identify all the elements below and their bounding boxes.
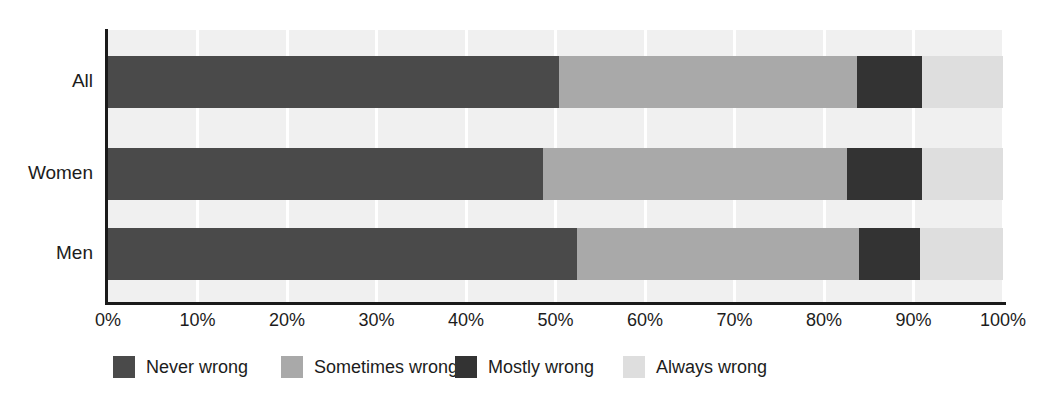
x-axis-line bbox=[105, 302, 1006, 305]
bar-segment-men-mostly-wrong bbox=[859, 228, 920, 280]
legend-item-always-wrong[interactable]: Always wrong bbox=[623, 356, 767, 378]
legend-item-never-wrong[interactable]: Never wrong bbox=[113, 356, 248, 378]
bar-segment-women-mostly-wrong bbox=[847, 148, 921, 200]
x-tick-label-40: 40% bbox=[448, 310, 484, 331]
legend: Never wrongSometimes wrongMostly wrongAl… bbox=[113, 356, 813, 380]
x-tick-label-0: 0% bbox=[95, 310, 121, 331]
x-tick-label-90: 90% bbox=[895, 310, 931, 331]
bar-row-women bbox=[108, 148, 1003, 200]
y-axis-label-women: Women bbox=[0, 162, 93, 184]
bar-segment-men-sometimes-wrong bbox=[577, 228, 859, 280]
y-axis-label-all: All bbox=[0, 70, 93, 92]
legend-swatch-icon-always-wrong bbox=[623, 356, 645, 378]
bar-segment-men-never-wrong bbox=[108, 228, 577, 280]
x-tick-label-100: 100% bbox=[980, 310, 1026, 331]
bar-segment-women-never-wrong bbox=[108, 148, 543, 200]
legend-item-sometimes-wrong[interactable]: Sometimes wrong bbox=[281, 356, 458, 378]
bar-segment-men-always-wrong bbox=[920, 228, 1003, 280]
bar-segment-all-never-wrong bbox=[108, 56, 559, 108]
bars-layer bbox=[108, 30, 1003, 302]
x-axis-tick-labels: 0%10%20%30%40%50%60%70%80%90%100% bbox=[108, 310, 1003, 336]
legend-label: Mostly wrong bbox=[488, 357, 594, 378]
stacked-bar-chart: AllWomenMen 0%10%20%30%40%50%60%70%80%90… bbox=[0, 0, 1059, 409]
legend-label: Always wrong bbox=[656, 357, 767, 378]
bar-row-men bbox=[108, 228, 1003, 280]
bar-segment-all-always-wrong bbox=[922, 56, 1003, 108]
legend-item-mostly-wrong[interactable]: Mostly wrong bbox=[455, 356, 594, 378]
legend-label: Never wrong bbox=[146, 357, 248, 378]
x-tick-label-20: 20% bbox=[269, 310, 305, 331]
x-tick-label-70: 70% bbox=[716, 310, 752, 331]
legend-swatch-icon-never-wrong bbox=[113, 356, 135, 378]
bar-segment-women-always-wrong bbox=[922, 148, 1003, 200]
legend-label: Sometimes wrong bbox=[314, 357, 458, 378]
bar-row-all bbox=[108, 56, 1003, 108]
x-tick-label-30: 30% bbox=[358, 310, 394, 331]
x-tick-label-10: 10% bbox=[179, 310, 215, 331]
bar-segment-women-sometimes-wrong bbox=[543, 148, 847, 200]
x-tick-label-60: 60% bbox=[627, 310, 663, 331]
bar-segment-all-sometimes-wrong bbox=[559, 56, 857, 108]
x-tick-label-50: 50% bbox=[537, 310, 573, 331]
bar-segment-all-mostly-wrong bbox=[857, 56, 921, 108]
legend-swatch-icon-sometimes-wrong bbox=[281, 356, 303, 378]
x-tick-label-80: 80% bbox=[806, 310, 842, 331]
legend-swatch-icon-mostly-wrong bbox=[455, 356, 477, 378]
y-axis-label-men: Men bbox=[0, 242, 93, 264]
